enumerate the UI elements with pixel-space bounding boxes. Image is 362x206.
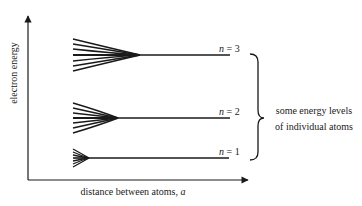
brace-annotation-line2: of individual atoms bbox=[275, 121, 353, 132]
energy-band-n3 bbox=[73, 39, 230, 71]
level-label-n1: n = 1 bbox=[219, 146, 240, 157]
level-label-n2: n = 2 bbox=[219, 106, 240, 117]
energy-band-n1 bbox=[73, 149, 229, 167]
brace-annotation-line1: some energy levels bbox=[276, 105, 353, 116]
energy-band-n2 bbox=[73, 103, 230, 133]
axes bbox=[28, 16, 248, 180]
energy-band-diagram: electron energy distance between atoms, … bbox=[0, 0, 362, 206]
level-label-n3: n = 3 bbox=[219, 43, 240, 54]
x-axis-label: distance between atoms, a bbox=[81, 186, 186, 197]
curly-brace bbox=[250, 54, 264, 160]
y-axis-label: electron energy bbox=[8, 42, 19, 104]
